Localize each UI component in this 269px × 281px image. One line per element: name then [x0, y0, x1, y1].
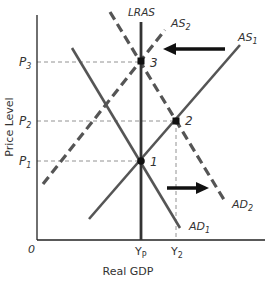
- x-axis-title: Real GDP: [103, 265, 154, 278]
- y-tick-p2: P2: [19, 114, 31, 130]
- as1-label: AS1: [237, 31, 258, 46]
- point-label-3: 3: [150, 56, 158, 70]
- x-tick-yp: YP: [134, 245, 147, 260]
- y-axis-title: Price Level: [3, 97, 16, 156]
- equilibrium-point-2: [173, 118, 180, 125]
- lras-label: LRAS: [128, 6, 155, 18]
- ad1-curve: [72, 48, 180, 228]
- x-tick-y2: Y2: [170, 245, 183, 260]
- y-tick-p1: P1: [19, 154, 31, 170]
- equilibrium-point-1: [137, 157, 145, 165]
- as2-label: AS2: [170, 17, 191, 32]
- shift-arrow-left: [163, 43, 225, 55]
- point-label-2: 2: [185, 114, 193, 128]
- ad2-label: AD2: [231, 198, 253, 213]
- y-tick-p3: P3: [19, 55, 31, 71]
- ad1-label: AD1: [188, 220, 210, 235]
- shift-arrow-right: [167, 182, 209, 194]
- origin-label: 0: [28, 243, 35, 256]
- equilibrium-point-3: [138, 58, 145, 65]
- as1-curve: [89, 45, 240, 219]
- point-label-1: 1: [150, 155, 158, 169]
- ad-as-diagram: 3 2 1 LRAS AS2 AS1 AD2 AD1 P3 P2 P1 YP Y…: [0, 0, 269, 281]
